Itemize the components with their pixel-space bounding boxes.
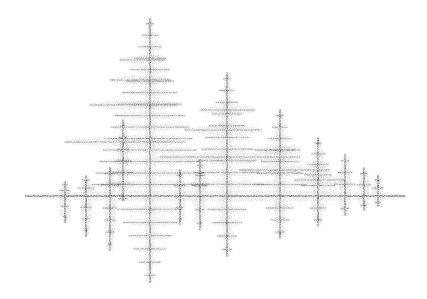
faint-watermark bbox=[318, 262, 328, 298]
fractal-trees-image bbox=[0, 0, 427, 299]
fractal-strokes bbox=[25, 18, 405, 283]
